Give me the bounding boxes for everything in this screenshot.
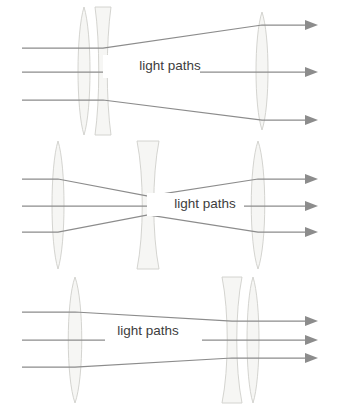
arrow-bottom-head (305, 115, 318, 125)
convex-lens-2-shape (256, 12, 268, 130)
beam-expander-diverging-output: light paths (22, 7, 318, 135)
diagrams-layer: light pathslight pathslight paths (22, 7, 318, 403)
ray-bottom (22, 358, 305, 367)
arrow-top-head (305, 20, 318, 30)
galilean-relay-parallel-output: light paths (22, 141, 318, 269)
convex-lens-1-shape (52, 141, 64, 269)
beam-condenser-converging-output-label: light paths (117, 323, 179, 338)
beam-condenser-converging-output: light paths (22, 277, 318, 403)
arrow-middle-head (305, 335, 318, 345)
convex-lens-1-shape (78, 7, 90, 135)
arrow-bottom-head (305, 227, 318, 237)
optics-canvas: light pathslight pathslight paths (0, 0, 339, 411)
optical-diagram-figure: light pathslight pathslight paths (0, 0, 339, 411)
ray-top (22, 312, 305, 321)
convex-lens-2-shape (251, 141, 265, 269)
arrow-bottom-head (305, 353, 318, 363)
arrow-top-head (305, 174, 318, 184)
galilean-relay-parallel-output-label: light paths (174, 196, 236, 211)
arrow-middle-head (305, 201, 318, 211)
arrow-top-head (305, 316, 318, 326)
beam-expander-diverging-output-label: light paths (139, 58, 201, 73)
arrow-middle-head (305, 67, 318, 77)
